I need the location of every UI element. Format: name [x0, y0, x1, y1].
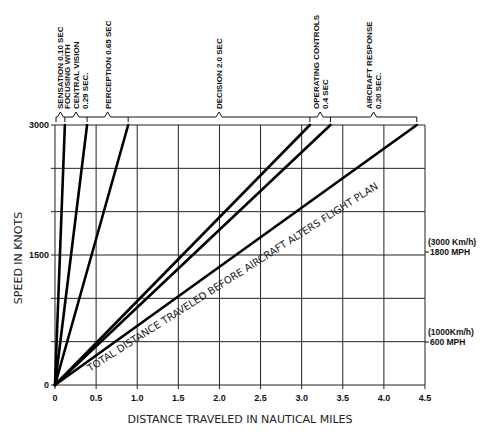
- stage-label: AIRCRAFT RESPONSE: [365, 21, 374, 109]
- x-tick-label: 2.5: [254, 393, 267, 403]
- stage-brackets: [56, 112, 417, 122]
- x-axis-title: DISTANCE TRAVELED IN NAUTICAL MILES: [127, 413, 352, 426]
- x-tick-label: 0: [52, 393, 57, 403]
- speed-conversion-low: (1000Km/h) 600 MPH: [425, 327, 474, 347]
- stage-label: 0.4 SEC: [321, 79, 330, 109]
- conv-low-kmh: (1000Km/h): [428, 327, 474, 337]
- y-axis-title: SPEED IN KNOTS: [12, 212, 25, 304]
- conv-low-mph: 600 MPH: [430, 337, 465, 347]
- y-tick-label: 0: [44, 380, 49, 390]
- conv-high-kmh: (3000 Km/h): [428, 237, 476, 247]
- x-tick-label: 0.5: [90, 393, 103, 403]
- diagonal-annotation: TOTAL DISTANCE TRAVELED BEFORE AIRCRAFT …: [84, 180, 380, 374]
- stage-label: FOCUSING WITH: [63, 44, 72, 109]
- x-tick-label: 2.0: [213, 393, 226, 403]
- conv-high-mph: 1800 MPH: [430, 247, 470, 257]
- stage-label: 0.20 SEC.: [374, 73, 383, 109]
- bracket: [87, 112, 128, 117]
- stage-label: PERCEPTION 0.65 SEC: [104, 20, 113, 109]
- x-tick-label: 1.0: [131, 393, 144, 403]
- stage-labels: SENSATION 0.10 SECFOCUSING WITHCENTRAL V…: [56, 14, 383, 109]
- x-tick-label: 4.5: [419, 393, 432, 403]
- x-tick-label: 3.5: [337, 393, 350, 403]
- y-tick-label: 3000: [29, 120, 49, 130]
- bracket: [310, 112, 331, 117]
- bracket: [330, 112, 416, 117]
- x-tick-label: 1.5: [172, 393, 185, 403]
- bracket: [128, 112, 310, 117]
- stage-label: OPERATING CONTROLS: [312, 14, 321, 109]
- x-tick-label: 4.0: [378, 393, 391, 403]
- bracket: [56, 112, 65, 117]
- stage-label: DECISION 2.0 SEC: [215, 38, 224, 109]
- x-tick-label: 3.0: [295, 393, 308, 403]
- y-tick-label: 1500: [29, 250, 49, 260]
- stage-label: CENTRAL VISION: [72, 41, 81, 109]
- speed-conversion-high: (3000 Km/h) 1800 MPH: [425, 237, 476, 257]
- reaction-distance-chart: 00.51.01.52.02.53.03.54.04.5015003000 SE…: [0, 0, 494, 438]
- bracket: [65, 112, 87, 117]
- stage-label: 0.29 SEC.: [81, 73, 90, 109]
